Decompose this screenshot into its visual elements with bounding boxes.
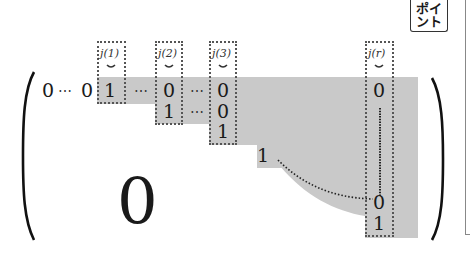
chevron-down-icon xyxy=(218,64,228,70)
row1-pivot-1: 1 xyxy=(104,81,116,100)
row1-lead-zero-b: 0 xyxy=(81,81,93,100)
row1-lead-dots: ⋯ xyxy=(58,84,71,98)
diagonal-dotted-curve xyxy=(276,158,376,208)
pivot-label-jr: j(r) xyxy=(368,48,385,59)
pivot-label-j2: j(2) xyxy=(158,48,177,59)
zero-block: 0 xyxy=(117,170,158,234)
margin-rule xyxy=(465,0,466,235)
row1-col-j2: 0 xyxy=(163,81,175,100)
row2-col-j3: 0 xyxy=(217,102,229,121)
colr-penultimate: 0 xyxy=(373,193,385,212)
point-badge: ポイ ント xyxy=(410,0,448,32)
row1-col-j3: 0 xyxy=(217,81,229,100)
chevron-down-icon xyxy=(106,64,116,70)
row1-dots-2: ⋯ xyxy=(190,84,203,98)
chevron-down-icon xyxy=(164,64,174,70)
chevron-down-icon xyxy=(374,64,384,70)
row1-dots-1: ⋯ xyxy=(134,84,147,98)
row2-dots: ⋯ xyxy=(190,105,203,119)
right-parenthesis xyxy=(428,76,448,242)
row4-pivot: 1 xyxy=(257,146,269,165)
left-parenthesis xyxy=(18,70,38,242)
pivot-label-j1: j(1) xyxy=(100,48,119,59)
pivot-label-j3: j(3) xyxy=(212,48,231,59)
row1-lead-zero-a: 0 xyxy=(42,81,54,100)
row2-pivot-2: 1 xyxy=(163,102,175,121)
badge-line-2: ント xyxy=(411,15,447,28)
margin-rule-foot xyxy=(465,234,470,235)
column-dotted-line xyxy=(377,108,383,196)
row3-pivot-3: 1 xyxy=(217,122,229,141)
row1-col-jr: 0 xyxy=(373,81,385,100)
colr-last: 1 xyxy=(373,214,385,233)
